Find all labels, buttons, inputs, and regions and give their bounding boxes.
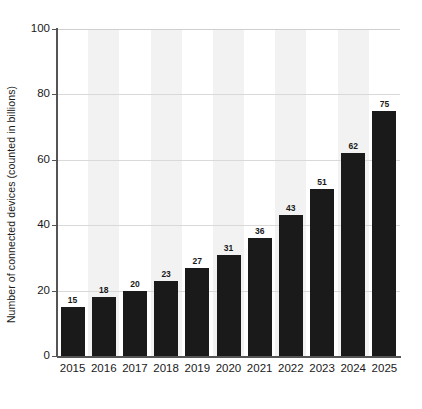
y-tick-mark	[52, 225, 57, 226]
plot-area	[57, 29, 400, 356]
y-tick-label: 40	[18, 219, 50, 231]
bar-value-label: 51	[306, 178, 337, 187]
bar[interactable]	[185, 268, 209, 356]
bar[interactable]	[372, 111, 396, 356]
x-tick-label: 2024	[338, 363, 369, 375]
x-tick-label: 2023	[306, 363, 337, 375]
bar-value-label: 31	[213, 244, 244, 253]
bar[interactable]	[248, 238, 272, 356]
bar[interactable]	[279, 215, 303, 356]
bar-value-label: 36	[244, 227, 275, 236]
bar[interactable]	[123, 291, 147, 356]
bar-value-label: 43	[275, 204, 306, 213]
bar[interactable]	[217, 255, 241, 356]
x-tick-label: 2025	[369, 363, 400, 375]
y-axis-tick-labels: 020406080100	[10, 0, 50, 409]
bar[interactable]	[341, 153, 365, 356]
y-tick-label: 100	[18, 23, 50, 35]
x-tick-label: 2019	[182, 363, 213, 375]
x-tick-label: 2021	[244, 363, 275, 375]
x-tick-label: 2018	[151, 363, 182, 375]
bar-value-label: 75	[369, 100, 400, 109]
x-axis-line	[57, 356, 401, 358]
gridline	[57, 29, 400, 30]
x-tick-label: 2022	[275, 363, 306, 375]
y-tick-mark	[52, 160, 57, 161]
y-tick-label: 0	[18, 350, 50, 362]
y-tick-mark	[52, 29, 57, 30]
y-tick-label: 20	[18, 285, 50, 297]
x-tick-label: 2020	[213, 363, 244, 375]
bar-value-label: 62	[338, 142, 369, 151]
y-tick-mark	[52, 94, 57, 95]
bar[interactable]	[310, 189, 334, 356]
bar-value-label: 27	[182, 257, 213, 266]
y-tick-mark	[52, 291, 57, 292]
bar-value-label: 18	[88, 286, 119, 295]
bar[interactable]	[92, 297, 116, 356]
bar-value-label: 23	[151, 270, 182, 279]
y-tick-label: 80	[18, 88, 50, 100]
bar[interactable]	[61, 307, 85, 356]
x-tick-label: 2017	[119, 363, 150, 375]
bar-value-label: 15	[57, 296, 88, 305]
y-tick-mark	[52, 356, 57, 357]
gridline	[57, 94, 400, 95]
x-tick-label: 2015	[57, 363, 88, 375]
bar-chart-figure: Number of connected devices (counted in …	[0, 0, 422, 409]
y-axis-line	[56, 28, 58, 357]
y-tick-label: 60	[18, 154, 50, 166]
bar-value-label: 20	[119, 280, 150, 289]
bar[interactable]	[154, 281, 178, 356]
x-tick-label: 2016	[88, 363, 119, 375]
